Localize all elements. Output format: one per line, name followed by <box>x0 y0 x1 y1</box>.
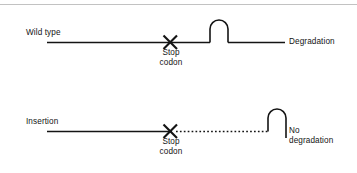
outcome-label-wild-type: Degradation <box>289 37 335 47</box>
exon-junction-complex-wild-type <box>210 20 228 43</box>
stop-codon-label-wild-type-line2: codon <box>145 58 197 68</box>
row-label-insertion: Insertion <box>26 117 58 127</box>
stop-codon-label-insertion-line2: codon <box>145 147 197 157</box>
exon-junction-complex-insertion <box>268 109 286 138</box>
figure-root: Wild type Stop codon Degradation Inserti… <box>0 0 357 173</box>
stop-codon-label-wild-type-line1: Stop <box>145 48 197 58</box>
outcome-label-insertion-line1: No <box>289 126 300 136</box>
row-label-wild-type: Wild type <box>26 28 61 38</box>
outcome-label-insertion-line2: degradation <box>289 136 333 146</box>
stop-codon-label-insertion-line1: Stop <box>145 137 197 147</box>
panel-insertion <box>47 109 286 138</box>
panel-wild-type <box>47 20 285 49</box>
